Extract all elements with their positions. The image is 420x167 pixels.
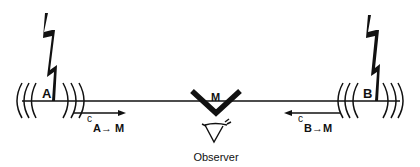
- mirror-label: M: [211, 91, 220, 103]
- signal-label-b-sub: B→M: [304, 122, 332, 134]
- diagram-canvas: A c A→ M M Observer c B→M B: [0, 0, 420, 167]
- signal-label-b-main: c: [298, 113, 303, 124]
- signal-label-a-sub: A→ M: [93, 122, 124, 134]
- eye-icon: [202, 119, 231, 142]
- signal-arrow-b-to-m: [284, 110, 340, 116]
- event-label-b: B: [363, 86, 372, 101]
- signal-label-a-main: c: [87, 113, 92, 124]
- event-label-a: A: [42, 86, 52, 101]
- observer-label: Observer: [193, 151, 239, 163]
